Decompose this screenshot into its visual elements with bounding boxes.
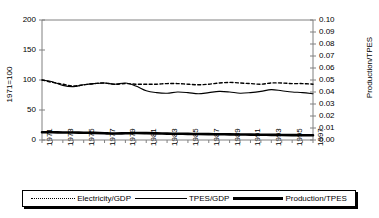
chart-legend: Electricity/GDP TPES/GDP Production/TPES [22,190,356,207]
legend-label: TPES/GDP [189,194,229,203]
legend-item-electricity-gdp: Electricity/GDP [31,194,131,203]
legend-item-production-tpes: Production/TPES [233,194,346,203]
legend-swatch-dotted-icon [31,195,75,203]
chart-container: 1971=100 Production/TPES 050100150200 0.… [0,0,379,218]
plot-area [0,0,379,218]
legend-swatch-thin-line-icon [135,195,187,203]
legend-swatch-thick-line-icon [233,195,283,203]
legend-label: Electricity/GDP [77,194,131,203]
series-line-tpes-gdp [42,80,313,94]
legend-label: Production/TPES [285,194,346,203]
legend-item-tpes-gdp: TPES/GDP [135,194,229,203]
series-line-production-tpes [42,132,313,135]
